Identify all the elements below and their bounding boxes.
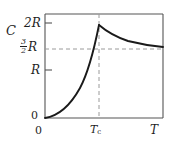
fraction-three-halves: 3 2 (20, 38, 27, 56)
x-tick-label-tc: Tc (90, 124, 101, 136)
x-axis-label: T (150, 124, 158, 136)
y-tick-label-three-halves-r: 3 2 R (20, 38, 37, 56)
y-tick-label-r: R (31, 64, 40, 76)
curve-below-tc (45, 25, 99, 118)
y-tick-label-2r: 2R (24, 17, 41, 29)
y-axis-ticks (45, 23, 52, 70)
heat-capacity-chart: C 2R 3 2 R R 0 0 Tc T (0, 0, 172, 151)
y-tick-unit-r: R (28, 41, 37, 53)
x-tick-tc-subscript: c (97, 128, 101, 136)
fraction-denominator: 2 (20, 46, 27, 55)
x-origin-label: 0 (35, 125, 42, 136)
fraction-numerator: 3 (20, 38, 27, 46)
y-origin-label: 0 (31, 110, 38, 121)
y-axis-label: C (6, 24, 16, 37)
curve-above-tc (99, 25, 163, 47)
